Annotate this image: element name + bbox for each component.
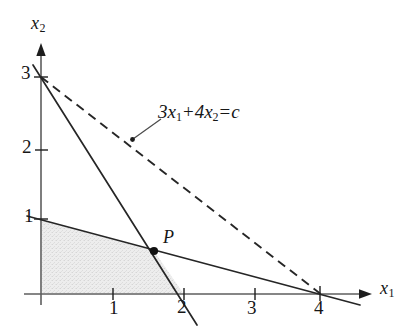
x-axis-label: x1 xyxy=(380,279,394,299)
y-axis-label-subscript: 2 xyxy=(39,21,45,35)
equation-term-2: 4x xyxy=(195,101,213,122)
equation-constant: c xyxy=(231,101,239,122)
y-axis-arrowhead xyxy=(36,43,45,56)
x-tick-label-3: 3 xyxy=(247,298,257,317)
y-tick-label-1: 1 xyxy=(24,206,34,225)
equation-leader-line xyxy=(133,119,161,139)
optimal-point-label: P xyxy=(163,228,174,246)
figure-root: x2 x1 3 2 1 1 2 3 4 P 3x1+4x2=c xyxy=(0,0,413,331)
equation-plus-operator: + xyxy=(182,101,195,122)
x-axis-arrowhead xyxy=(359,289,372,298)
equation-sub-2: 2 xyxy=(213,110,219,124)
feasible-region-shading xyxy=(42,220,183,293)
y-tick-label-2: 2 xyxy=(22,137,32,156)
x-tick-label-2: 2 xyxy=(177,297,187,316)
x-axis-label-text: x xyxy=(380,278,388,298)
objective-equation-label: 3x1+4x2=c xyxy=(158,102,240,123)
x-tick-label-1: 1 xyxy=(109,298,119,317)
equation-leader-dot xyxy=(130,137,135,142)
x-axis-label-subscript: 1 xyxy=(388,286,394,300)
y-tick-label-3: 3 xyxy=(21,63,31,82)
equation-equals-operator: = xyxy=(219,101,232,122)
x-tick-label-4: 4 xyxy=(314,298,324,317)
y-axis-label-text: x xyxy=(31,13,39,33)
equation-term-1: 3x xyxy=(158,101,176,122)
y-axis-label: x2 xyxy=(31,14,45,34)
optimal-point-marker xyxy=(150,247,158,255)
plot-canvas xyxy=(0,0,413,331)
